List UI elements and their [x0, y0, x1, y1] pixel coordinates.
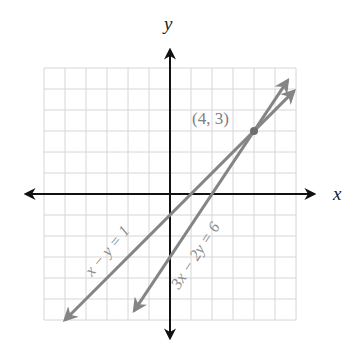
- y-axis-label: y: [162, 13, 173, 34]
- line2-label: 3x − 2y = 6: [167, 219, 224, 293]
- intersection-label: (4, 3): [192, 109, 229, 128]
- x-axis-label: x: [332, 183, 342, 204]
- coordinate-graph: x y (4, 3) x − y = 1 3x − 2y = 6: [0, 0, 364, 359]
- intersection-point: [250, 127, 258, 135]
